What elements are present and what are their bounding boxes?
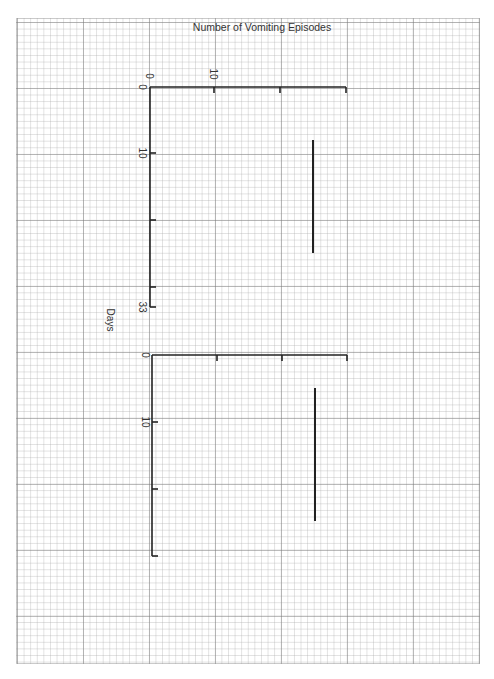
chart-2: 0 10 <box>140 352 347 556</box>
chart1-y-label-10: 10 <box>137 147 148 159</box>
chart-canvas: Number of Vomiting Episodes 0 10 0 10 33… <box>0 0 494 679</box>
chart1-y-label-33: 33 <box>137 301 148 313</box>
chart-title: Number of Vomiting Episodes <box>193 21 331 33</box>
chart1-x-label-10: 10 <box>208 68 219 80</box>
chart-1: 0 10 0 10 33 <box>137 68 346 313</box>
chart2-y-label-10: 10 <box>140 416 151 428</box>
chart1-y-label-0: 0 <box>137 84 148 90</box>
chart1-x-label-0: 0 <box>144 73 155 79</box>
chart2-y-label-0: 0 <box>140 352 151 358</box>
days-axis-label: Days <box>105 309 116 332</box>
